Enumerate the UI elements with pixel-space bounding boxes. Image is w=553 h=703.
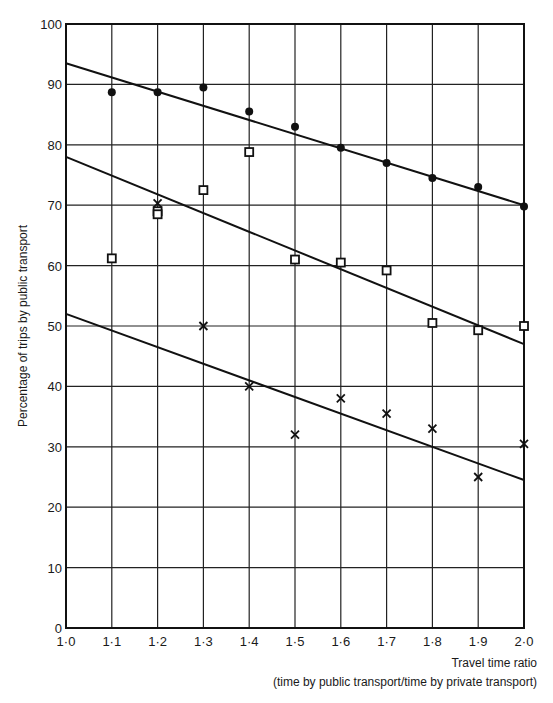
y-tick-label: 20 <box>48 500 62 515</box>
y-tick-label: 50 <box>48 319 62 334</box>
y-tick-label: 90 <box>48 77 62 92</box>
x-tick-label: 2·0 <box>515 634 534 649</box>
x-tick-label: 1·5 <box>286 634 305 649</box>
circle-marker <box>291 123 299 131</box>
y-tick-label: 80 <box>48 138 62 153</box>
grid-lines <box>66 24 524 628</box>
circle-marker <box>245 108 253 116</box>
y-tick-label: 70 <box>48 198 62 213</box>
square-marker <box>337 259 345 267</box>
circle-marker <box>383 159 391 167</box>
circle-marker <box>520 202 528 210</box>
x-tick-labels: 1·01·11·21·31·41·51·61·71·81·92·0 <box>57 634 534 649</box>
square-marker <box>154 210 162 218</box>
y-tick-label: 40 <box>48 379 62 394</box>
square-marker <box>199 186 207 194</box>
y-tick-label: 100 <box>40 17 62 32</box>
x-axis-sublabel: (time by public transport/time by privat… <box>273 675 537 689</box>
x-tick-label: 1·0 <box>57 634 76 649</box>
y-tick-label: 10 <box>48 561 62 576</box>
circle-marker <box>337 144 345 152</box>
y-tick-label: 60 <box>48 259 62 274</box>
circle-marker <box>474 183 482 191</box>
square-marker <box>245 148 253 156</box>
x-tick-label: 1·4 <box>240 634 259 649</box>
square-marker <box>108 254 116 262</box>
y-tick-label: 30 <box>48 440 62 455</box>
square-marker <box>383 266 391 274</box>
y-axis-label: Percentage of trips by public transport <box>16 224 30 427</box>
x-tick-label: 1·8 <box>423 634 442 649</box>
data-points <box>108 83 528 481</box>
x-tick-label: 1·7 <box>377 634 396 649</box>
circle-marker <box>428 174 436 182</box>
circle-marker <box>199 83 207 91</box>
square-marker <box>474 326 482 334</box>
x-tick-label: 1·6 <box>331 634 350 649</box>
circle-marker <box>154 88 162 96</box>
square-marker <box>291 256 299 264</box>
square-marker <box>520 322 528 330</box>
y-tick-labels: 0102030405060708090100 <box>40 17 62 636</box>
x-tick-label: 1·2 <box>148 634 167 649</box>
x-tick-label: 1·1 <box>102 634 121 649</box>
circle-marker <box>108 88 116 96</box>
x-tick-label: 1·3 <box>194 634 213 649</box>
x-tick-label: 1·9 <box>469 634 488 649</box>
square-marker <box>428 319 436 327</box>
chart: 0102030405060708090100 1·01·11·21·31·41·… <box>0 0 553 703</box>
x-axis-label: Travel time ratio <box>451 656 537 670</box>
